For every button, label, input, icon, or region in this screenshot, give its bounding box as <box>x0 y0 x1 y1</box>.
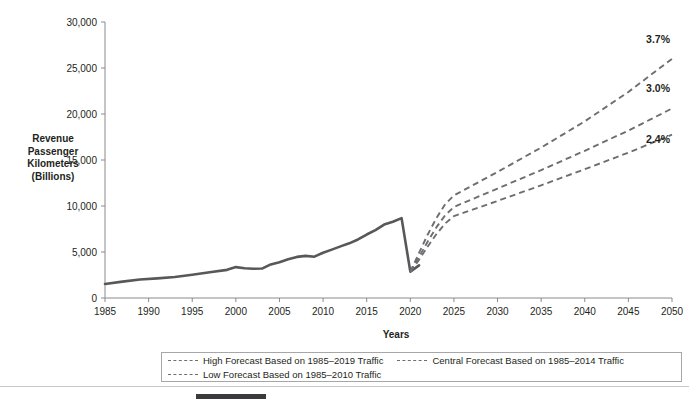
forecast-line-2 <box>410 108 672 271</box>
legend-entry-low-forecast: Low Forecast Based on 1985–2010 Traffic <box>168 369 381 380</box>
x-axis-tick-label: 1990 <box>137 306 160 317</box>
y-axis-tick-label: 5,000 <box>72 247 97 258</box>
legend-label-low-forecast: Low Forecast Based on 1985–2010 Traffic <box>203 369 381 380</box>
x-axis-tick-label: 2025 <box>443 306 466 317</box>
dashed-line-swatch-central <box>397 360 427 361</box>
x-axis-tick-label: 2000 <box>225 306 248 317</box>
x-axis-tick-label: 2015 <box>356 306 379 317</box>
chart-legend: High Forecast Based on 1985–2019 Traffic… <box>161 352 682 382</box>
y-axis-title-line: Revenue <box>32 133 74 144</box>
x-axis-tick-label: 2020 <box>399 306 422 317</box>
y-axis-tick-label: 25,000 <box>66 63 97 74</box>
x-axis-tick-label: 2035 <box>530 306 553 317</box>
growth-rate-label: 3.7% <box>646 33 671 45</box>
x-axis-tick-label: 2050 <box>661 306 684 317</box>
x-axis-ticks: 1985199019952000200520102015202020252030… <box>94 298 684 317</box>
growth-rate-label: 3.0% <box>646 82 671 94</box>
x-axis-title: Years <box>383 329 410 340</box>
legend-entry-high-forecast: High Forecast Based on 1985–2019 Traffic <box>168 355 383 366</box>
dashed-line-swatch-high <box>168 360 198 361</box>
y-axis-tick-label: 20,000 <box>66 109 97 120</box>
y-axis-title: RevenuePassengerKilometers(Billions) <box>27 133 79 182</box>
x-axis-tick-label: 1985 <box>94 306 117 317</box>
page-divider <box>0 386 689 399</box>
x-axis-tick-label: 2040 <box>574 306 597 317</box>
y-axis-tick-label: 30,000 <box>66 17 97 28</box>
growth-rate-annotations: 3.7%3.0%2.4% <box>646 33 671 145</box>
x-axis-tick-label: 1995 <box>181 306 204 317</box>
x-axis-tick-label: 2005 <box>268 306 291 317</box>
forecast-line-1 <box>410 59 672 272</box>
legend-row-top: High Forecast Based on 1985–2019 Traffic… <box>162 353 681 367</box>
legend-row-bottom: Low Forecast Based on 1985–2010 Traffic <box>162 367 681 381</box>
solid-line-swatch-historical <box>196 394 266 399</box>
chart-canvas: 05,00010,00015,00020,00025,00030,000 198… <box>0 0 689 399</box>
x-axis-tick-label: 2030 <box>486 306 509 317</box>
forecast-line-3 <box>410 135 672 272</box>
y-axis-title-line: Passenger <box>28 146 79 157</box>
legend-label-central-forecast: Central Forecast Based on 1985–2014 Traf… <box>432 355 624 366</box>
y-axis-tick-label: 0 <box>91 293 97 304</box>
x-axis-tick-label: 2010 <box>312 306 335 317</box>
y-axis-title-line: Kilometers <box>27 158 79 169</box>
axes-group <box>105 22 672 298</box>
y-axis-tick-label: 10,000 <box>66 201 97 212</box>
legend-label-high-forecast: High Forecast Based on 1985–2019 Traffic <box>203 355 383 366</box>
y-axis-title-line: (Billions) <box>32 171 75 182</box>
dashed-line-swatch-low <box>168 374 198 375</box>
legend-entry-central-forecast: Central Forecast Based on 1985–2014 Traf… <box>397 355 624 366</box>
historical-traffic-line <box>105 218 419 284</box>
x-axis-tick-label: 2045 <box>617 306 640 317</box>
growth-rate-label: 2.4% <box>646 133 671 145</box>
chart-container: 05,00010,00015,00020,00025,00030,000 198… <box>0 0 689 399</box>
data-series-group <box>105 59 672 284</box>
